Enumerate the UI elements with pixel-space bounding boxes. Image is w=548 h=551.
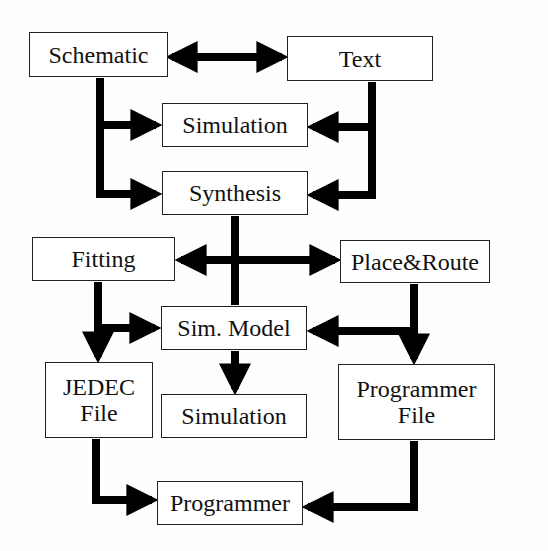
node-synthesis: Synthesis xyxy=(162,171,308,215)
flow-diagram: Schematic Text Simulation Synthesis Fitt… xyxy=(0,0,548,551)
node-label: Synthesis xyxy=(189,180,281,206)
node-label: Text xyxy=(339,46,381,72)
node-text: Text xyxy=(287,36,433,81)
arrow-jedec-programmer xyxy=(96,439,152,500)
node-schematic: Schematic xyxy=(29,32,168,77)
node-simulation-top: Simulation xyxy=(162,103,308,147)
node-label: Schematic xyxy=(49,42,149,68)
node-programmer: Programmer xyxy=(157,481,303,525)
arrow-text-synthesis xyxy=(313,82,372,195)
arrow-progfile-programmer xyxy=(308,441,414,507)
node-label: Simulation xyxy=(181,403,286,429)
node-label: Sim. Model xyxy=(177,315,290,341)
node-programmer-file: Programmer File xyxy=(338,364,495,440)
node-label-line2: File xyxy=(398,402,435,428)
node-label: Simulation xyxy=(182,112,287,138)
node-label-line1: JEDEC xyxy=(63,374,135,400)
node-label: Fitting xyxy=(71,246,135,272)
node-jedec-file: JEDEC File xyxy=(45,362,153,438)
node-place-route: Place&Route xyxy=(340,240,490,283)
node-sim-model: Sim. Model xyxy=(161,306,307,350)
node-label: Programmer xyxy=(170,490,290,516)
arrow-schematic-synthesis xyxy=(100,78,156,194)
node-label: Place&Route xyxy=(351,249,479,275)
node-label-line2: File xyxy=(80,400,117,426)
node-simulation-bottom: Simulation xyxy=(161,394,307,438)
node-fitting: Fitting xyxy=(32,237,175,281)
node-label-line1: Programmer xyxy=(357,376,477,402)
